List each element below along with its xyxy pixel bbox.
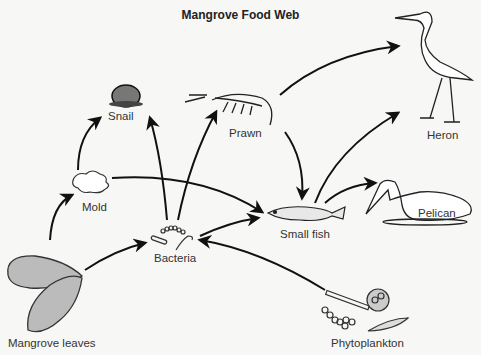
arrow-mold-to-snail: [78, 118, 100, 170]
arrow-bacteria-to-prawn: [178, 112, 216, 220]
arrow-bacteria-to-snail: [150, 118, 167, 220]
arrow-leaves-to-bacteria: [85, 243, 145, 270]
arrow-phyto-to-bacteria: [200, 240, 325, 290]
prawn-icon: [185, 94, 272, 125]
bacteria-icon: [151, 226, 193, 250]
label-small-fish: Small fish: [280, 228, 330, 240]
label-mangrove-leaves: Mangrove leaves: [8, 337, 96, 349]
phytoplankton-icon: [322, 289, 408, 331]
label-mold: Mold: [82, 201, 107, 213]
arrow-prawn-to-heron: [280, 46, 398, 95]
small-fish-icon: [268, 207, 345, 221]
mangrove-leaves-icon: [8, 256, 82, 332]
label-pelican: Pelican: [418, 207, 456, 219]
mold-icon: [73, 171, 109, 193]
arrow-bacteria-to-fish: [200, 218, 258, 236]
heron-icon: [395, 12, 472, 122]
food-web-diagram: [0, 0, 481, 355]
label-phytoplankton: Phytoplankton: [331, 337, 404, 349]
label-heron: Heron: [427, 129, 458, 141]
label-bacteria: Bacteria: [154, 252, 196, 264]
arrow-leaves-to-mold: [50, 195, 72, 240]
snail-icon: [109, 85, 143, 107]
label-snail: Snail: [108, 110, 134, 122]
label-prawn: Prawn: [229, 127, 262, 139]
arrow-prawn-to-fish: [285, 132, 302, 198]
arrow-fish-to-pelican: [325, 183, 375, 203]
